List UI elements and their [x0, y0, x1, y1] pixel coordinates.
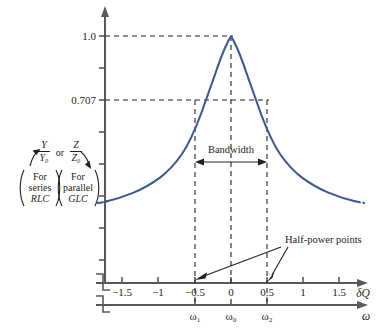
x-axis-label: δQ [356, 287, 370, 299]
omega-axis-label: ω [362, 310, 370, 322]
omega-tick-label-0: ω₀ [225, 310, 236, 322]
half-power-arrow-left-line [204, 247, 281, 276]
y-caption-parallel-line3: GLC [68, 193, 88, 204]
y-tick-label-0707: 0.707 [71, 94, 96, 106]
half-power-arrowhead-left [195, 272, 207, 280]
y-caption-connector: or [56, 147, 65, 158]
omega-tick-label-2: ω₂ [261, 310, 272, 322]
y-caption-denominator-1: Y₀ [39, 152, 49, 163]
half-power-points-annotation: Half-power points [195, 234, 362, 282]
y-caption-group-parallel: For parallel GLC [58, 170, 99, 206]
y-tick-label-1: 1.0 [82, 30, 96, 42]
y-caption-numerator-1: Y [41, 139, 48, 150]
omega-tick-label-1: ω₁ [189, 310, 200, 322]
bandwidth-annotation: Bandwidth [195, 144, 267, 166]
half-power-points-label: Half-power points [285, 234, 362, 245]
paren-right-close [95, 170, 99, 206]
y-caption-denominator-2: Z₀ [71, 152, 81, 163]
half-power-arrow-right-line [272, 247, 288, 275]
omega-axis-arrowhead [357, 301, 368, 309]
y-caption-numerator-2: Z [73, 139, 79, 150]
x-tick-label-0: 0 [228, 286, 234, 298]
axis-group [96, 6, 368, 312]
x-tick-label-1-5: 1.5 [332, 286, 346, 298]
bandwidth-arrowhead-left [195, 158, 204, 165]
paren-left-open [20, 170, 24, 206]
y-caption-parallel-line2: parallel [63, 182, 93, 193]
y-axis-arrowhead [101, 6, 109, 17]
x-tick-label-minus-1: −1 [152, 286, 164, 298]
y-caption-series-line2: series [29, 182, 52, 193]
y-caption-series-line3: RLC [30, 193, 50, 204]
x-tick-label-1: 1 [300, 286, 306, 298]
y-caption-series-line1: For [33, 171, 48, 182]
x-tick-label-minus-1-5: −1.5 [112, 286, 132, 298]
x-axis-arrowhead [357, 279, 368, 287]
x-tick-label-minus-0-5: −0.5 [185, 286, 205, 298]
y-caption-group-series: For series RLC [20, 170, 60, 206]
guide-lines-group [105, 36, 269, 305]
half-power-arrowhead-right [267, 272, 275, 283]
resonance-curve-right-tail [355, 201, 364, 203]
resonance-response-figure: 1.0 0.707 −1.5 −1 −0.5 0 0.5 1 1.5 δQ ω₁… [0, 0, 385, 328]
bandwidth-arrowhead-right [258, 158, 267, 165]
y-axis-caption: Y Y₀ or Z Z₀ For series RLC [20, 139, 99, 206]
x-tick-label-0-5: 0.5 [260, 286, 274, 298]
bandwidth-label: Bandwidth [208, 144, 255, 155]
y-caption-parallel-line1: For [71, 171, 86, 182]
